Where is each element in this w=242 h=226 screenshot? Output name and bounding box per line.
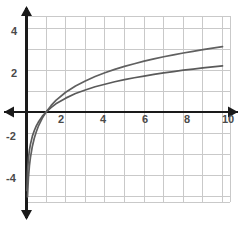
x-tick-label-10: 10 bbox=[222, 114, 234, 125]
y-axis-arrow-bottom bbox=[21, 210, 32, 220]
y-tick-label-minus-4: -4 bbox=[6, 173, 16, 184]
x-tick-label-6: 6 bbox=[142, 114, 148, 125]
plot-canvas bbox=[0, 0, 242, 226]
y-tick-label-4: 4 bbox=[11, 26, 17, 37]
log-graph-figure: 4 2 -2 -4 2 4 6 8 10 bbox=[0, 0, 242, 226]
x-tick-label-2: 2 bbox=[58, 114, 64, 125]
x-tick-label-4: 4 bbox=[100, 114, 106, 125]
y-tick-label-minus-2: -2 bbox=[6, 131, 16, 142]
x-tick-label-8: 8 bbox=[184, 114, 190, 125]
y-tick-label-2: 2 bbox=[11, 68, 17, 79]
grid-lines bbox=[27, 16, 231, 202]
y-axis-arrow-top bbox=[21, 6, 32, 16]
x-axis-arrow-left bbox=[4, 107, 14, 118]
